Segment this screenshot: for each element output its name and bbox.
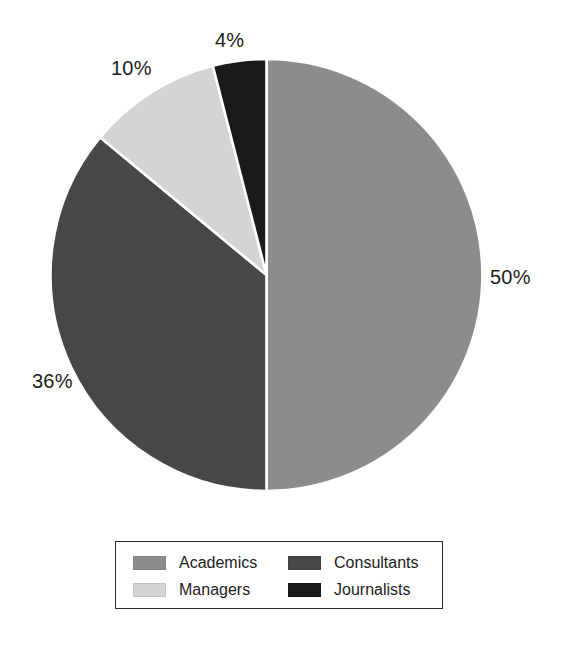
legend-row: Managers Journalists bbox=[116, 576, 442, 603]
pie-chart-figure: 4% 10% 36% 50% Academics Consultants Man… bbox=[0, 0, 563, 655]
slice-label-managers: 10% bbox=[111, 58, 152, 78]
pie-slice-group bbox=[51, 59, 483, 491]
legend-swatch-academics bbox=[133, 556, 166, 570]
pie-slice-academics[interactable] bbox=[267, 59, 483, 491]
legend-item-managers[interactable]: Managers bbox=[116, 582, 275, 598]
slice-label-journalists: 4% bbox=[215, 30, 244, 50]
slice-label-academics: 50% bbox=[490, 267, 531, 287]
legend-item-academics[interactable]: Academics bbox=[116, 555, 275, 571]
legend-swatch-consultants bbox=[288, 556, 321, 570]
chart-legend: Academics Consultants Managers Journalis… bbox=[115, 541, 443, 609]
legend-swatch-journalists bbox=[288, 583, 321, 597]
legend-row: Academics Consultants bbox=[116, 549, 442, 576]
legend-label-managers: Managers bbox=[179, 582, 250, 598]
legend-label-academics: Academics bbox=[179, 555, 257, 571]
legend-swatch-managers bbox=[133, 583, 166, 597]
legend-item-consultants[interactable]: Consultants bbox=[275, 555, 442, 571]
legend-item-journalists[interactable]: Journalists bbox=[275, 582, 442, 598]
slice-label-consultants: 36% bbox=[32, 371, 73, 391]
legend-label-consultants: Consultants bbox=[334, 555, 419, 571]
legend-label-journalists: Journalists bbox=[334, 582, 410, 598]
